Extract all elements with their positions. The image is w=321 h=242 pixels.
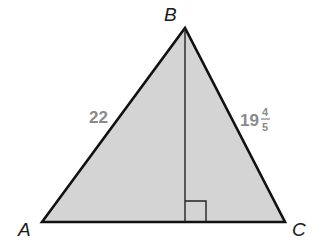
side-label-bc-numerator: 4 (262, 106, 269, 118)
vertex-label-a: A (17, 219, 31, 240)
vertex-label-c: C (292, 219, 306, 240)
side-label-bc-whole: 19 (240, 111, 259, 130)
side-label-bc-denominator: 5 (262, 121, 268, 133)
side-label-ab: 22 (89, 108, 108, 127)
vertex-label-b: B (164, 4, 177, 25)
triangle-diagram: B A C 22 19 4 5 (0, 0, 321, 242)
